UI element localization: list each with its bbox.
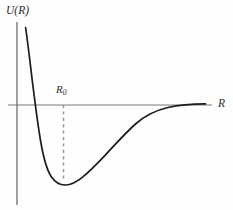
potential-curve [26, 28, 206, 186]
equilibrium-distance-label: R0 [56, 84, 66, 96]
r0-symbol: R [56, 83, 63, 95]
r0-subscript: 0 [63, 88, 67, 97]
plot-canvas [0, 0, 233, 210]
x-axis-label: R [218, 98, 225, 110]
potential-energy-figure: U(R) R R0 [0, 0, 233, 210]
y-axis-label: U(R) [6, 5, 29, 17]
